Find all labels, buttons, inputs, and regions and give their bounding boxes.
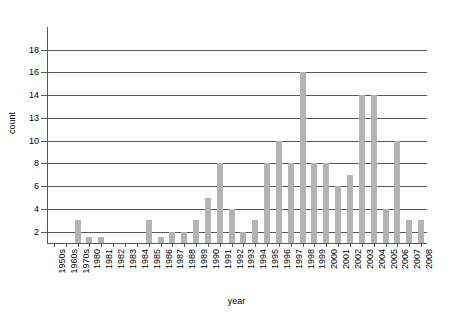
- bar-column: [226, 27, 238, 243]
- x-tick-column: [356, 243, 368, 247]
- x-tick-column: [249, 243, 261, 247]
- bar: [181, 232, 187, 243]
- y-tick-mark: [41, 95, 48, 96]
- bar-column: [48, 27, 60, 243]
- bar: [359, 95, 365, 243]
- bar-column: [380, 27, 392, 243]
- x-tick-column: [48, 243, 60, 247]
- y-tick-label: 10: [29, 136, 39, 146]
- bar-column: [72, 27, 84, 243]
- y-tick-label: 2: [34, 227, 39, 237]
- x-label-column: 2003: [355, 249, 367, 291]
- x-tick-mark: [137, 243, 138, 247]
- bar-column: [391, 27, 403, 243]
- y-tick-label: 16: [29, 67, 39, 77]
- bar: [169, 232, 175, 243]
- x-label-column: 1987: [165, 249, 177, 291]
- x-tick-column: [60, 243, 72, 247]
- x-tick-column: [178, 243, 190, 247]
- bar: [240, 232, 246, 243]
- x-tick-column: [202, 243, 214, 247]
- bar-column: [356, 27, 368, 243]
- x-tick-column: [238, 243, 250, 247]
- x-tick-mark: [314, 243, 315, 247]
- bar-column: [202, 27, 214, 243]
- x-tick-mark: [243, 243, 244, 247]
- x-tick-column: [72, 243, 84, 247]
- x-tick-marks: [48, 243, 427, 247]
- x-tick-column: [380, 243, 392, 247]
- x-label-column: 2002: [343, 249, 355, 291]
- bar: [276, 141, 282, 243]
- y-tick-mark: [41, 141, 48, 142]
- x-tick-mark: [220, 243, 221, 247]
- x-tick-mark: [374, 243, 375, 247]
- y-tick-label: 4: [34, 204, 39, 214]
- x-label-column: 1999: [308, 249, 320, 291]
- x-tick-mark: [421, 243, 422, 247]
- bar: [371, 95, 377, 243]
- x-axis-title: year: [47, 296, 426, 306]
- y-tick-label: 13: [29, 113, 39, 123]
- bar-column: [415, 27, 427, 243]
- bar: [75, 220, 81, 243]
- x-axis-tick-labels: 1950s1960s1970s1980198119821983198419851…: [47, 249, 426, 291]
- x-label-column: 1970s: [71, 249, 83, 291]
- y-tick-mark: [41, 50, 48, 51]
- x-label-column: 1984: [130, 249, 142, 291]
- x-tick-column: [297, 243, 309, 247]
- bar: [394, 141, 400, 243]
- x-tick-mark: [54, 243, 55, 247]
- x-tick-column: [190, 243, 202, 247]
- x-tick-mark: [279, 243, 280, 247]
- y-tick-mark: [41, 209, 48, 210]
- x-tick-mark: [267, 243, 268, 247]
- x-label-column: 1985: [142, 249, 154, 291]
- bar-column: [84, 27, 96, 243]
- bars-layer: [48, 27, 427, 243]
- x-tick-column: [107, 243, 119, 247]
- x-tick-column: [155, 243, 167, 247]
- x-label-column: 1997: [284, 249, 296, 291]
- x-label-column: 1950s: [47, 249, 59, 291]
- bar: [347, 175, 353, 243]
- x-label-column: 2007: [402, 249, 414, 291]
- bar-column: [297, 27, 309, 243]
- x-tick-column: [415, 243, 427, 247]
- bar: [252, 220, 258, 243]
- x-label-column: 1995: [260, 249, 272, 291]
- x-label-column: 1991: [213, 249, 225, 291]
- x-tick-column: [391, 243, 403, 247]
- bar: [311, 163, 317, 243]
- x-tick-mark: [208, 243, 209, 247]
- x-label-column: 1960s: [59, 249, 71, 291]
- bar: [217, 163, 223, 243]
- bar-column: [190, 27, 202, 243]
- x-tick-mark: [303, 243, 304, 247]
- x-tick-mark: [161, 243, 162, 247]
- y-tick-mark: [41, 163, 48, 164]
- bar: [323, 163, 329, 243]
- bar: [335, 186, 341, 243]
- bar-column: [403, 27, 415, 243]
- bar: [383, 209, 389, 243]
- bar-chart: count 24681013141618 1950s1960s1970s1980…: [0, 0, 452, 323]
- bar-column: [214, 27, 226, 243]
- x-tick-column: [226, 243, 238, 247]
- bar: [406, 220, 412, 243]
- x-tick-mark: [338, 243, 339, 247]
- bar-column: [273, 27, 285, 243]
- x-tick-mark: [89, 243, 90, 247]
- x-tick-column: [285, 243, 297, 247]
- y-tick-label: 14: [29, 90, 39, 100]
- x-tick-mark: [78, 243, 79, 247]
- x-label-column: 2000: [319, 249, 331, 291]
- x-tick-column: [309, 243, 321, 247]
- bar-column: [178, 27, 190, 243]
- x-tick-mark: [184, 243, 185, 247]
- x-tick-column: [403, 243, 415, 247]
- bar-column: [261, 27, 273, 243]
- bar-column: [60, 27, 72, 243]
- x-tick-mark: [66, 243, 67, 247]
- bar: [418, 220, 424, 243]
